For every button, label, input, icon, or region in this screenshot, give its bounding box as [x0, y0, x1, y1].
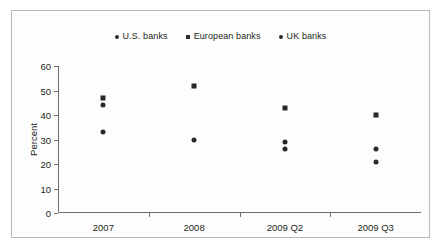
y-axis-title: Percent	[27, 66, 39, 213]
y-axis-tick	[54, 140, 58, 141]
y-axis-tick-label: 20	[40, 159, 51, 170]
y-axis-tick	[54, 189, 58, 190]
x-axis-tick-label: 2008	[184, 222, 205, 233]
legend-item-label: European banks	[194, 32, 261, 41]
legend-dot-icon	[279, 35, 283, 39]
legend-item[interactable]: UK banks	[279, 32, 327, 41]
y-axis-tick	[54, 213, 58, 214]
y-axis-tick-label: 60	[40, 61, 51, 72]
legend-item[interactable]: European banks	[186, 32, 261, 41]
x-axis-tick-label: 2009 Q2	[267, 222, 303, 233]
legend-square-icon	[186, 35, 190, 39]
plot-area: 0102030405060 200720082009 Q22009 Q3	[58, 66, 421, 213]
y-axis-line	[58, 66, 59, 213]
data-point-marker	[192, 83, 197, 88]
data-point-marker	[373, 147, 378, 152]
data-point-marker	[101, 130, 106, 135]
data-point-marker	[373, 159, 378, 164]
y-axis-tick	[54, 115, 58, 116]
data-point-marker	[282, 147, 287, 152]
y-axis-tick	[54, 66, 58, 67]
y-axis-tick-label: 50	[40, 85, 51, 96]
x-axis-tick-label: 2007	[93, 222, 114, 233]
data-point-marker	[192, 137, 197, 142]
data-point-marker	[282, 139, 287, 144]
y-axis-tick-label: 0	[46, 208, 51, 219]
x-axis-tick	[149, 213, 150, 217]
data-point-marker	[101, 95, 106, 100]
y-axis-tick	[54, 164, 58, 165]
x-axis-tick	[330, 213, 331, 217]
data-point-marker	[373, 113, 378, 118]
legend-item-label: UK banks	[287, 32, 327, 41]
y-axis-tick-label: 40	[40, 110, 51, 121]
chart-figure: U.S. banksEuropean banksUK banks Percent…	[11, 10, 430, 238]
x-axis-tick-label: 2009 Q3	[357, 222, 393, 233]
legend-item-label: U.S. banks	[123, 32, 168, 41]
y-axis-tick-label: 10	[40, 183, 51, 194]
y-axis-tick-label: 30	[40, 134, 51, 145]
y-axis-title-text: Percent	[28, 123, 39, 156]
legend-item[interactable]: U.S. banks	[115, 32, 168, 41]
data-point-marker	[101, 103, 106, 108]
legend-dot-icon	[115, 35, 119, 39]
chart-legend: U.S. banksEuropean banksUK banks	[12, 32, 429, 41]
y-axis-tick	[54, 91, 58, 92]
data-point-marker	[282, 105, 287, 110]
x-axis-tick	[240, 213, 241, 217]
